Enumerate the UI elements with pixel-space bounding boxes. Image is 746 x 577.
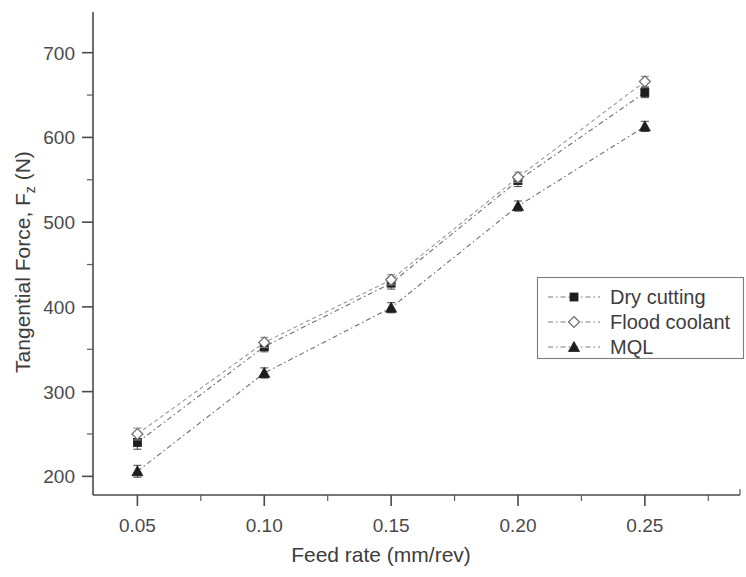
marker-mql-3 [512, 201, 523, 211]
tangential-force-chart: Tangential Force, Fz (N) Feed rate (mm/r… [0, 0, 746, 577]
x-tick-label: 0.10 [246, 515, 283, 536]
marker-flood-coolant-0 [132, 428, 143, 439]
series-dry-cutting [133, 87, 648, 449]
series-line-flood-coolant [137, 82, 645, 435]
y-tick-label: 200 [43, 466, 75, 487]
y-axis-ticks: 200300400500600700 [43, 43, 93, 488]
y-axis-title-text: Tangential Force, F [11, 193, 34, 373]
x-tick-label: 0.25 [626, 515, 663, 536]
y-tick-label: 400 [43, 297, 75, 318]
x-axis-title: Feed rate (mm/rev) [291, 543, 471, 566]
marker-mql-0 [132, 466, 143, 476]
marker-dry-cutting-legend [570, 293, 578, 301]
y-axis-title-subscript: z [22, 186, 38, 193]
x-tick-label: 0.20 [499, 515, 536, 536]
y-axis-title-unit: (N) [11, 151, 34, 186]
y-tick-label: 500 [43, 212, 75, 233]
series-line-dry-cutting [137, 93, 645, 443]
marker-dry-cutting-4 [641, 89, 649, 97]
x-tick-label: 0.05 [119, 515, 156, 536]
x-tick-label: 0.15 [373, 515, 410, 536]
x-axis-ticks: 0.050.100.150.200.25 [119, 489, 740, 536]
chart-canvas: Tangential Force, Fz (N) Feed rate (mm/r… [0, 0, 746, 577]
y-axis-title: Tangential Force, Fz (N) [11, 151, 38, 373]
legend: Dry cuttingFlood coolantMQL [538, 278, 744, 359]
data-series-layer [132, 76, 650, 477]
marker-mql-2 [386, 302, 397, 312]
series-flood-coolant [132, 76, 650, 440]
y-tick-label: 300 [43, 382, 75, 403]
marker-mql-4 [639, 121, 650, 131]
marker-mql-1 [259, 367, 270, 377]
legend-label-mql: MQL [610, 336, 653, 358]
marker-flood-coolant-4 [639, 76, 650, 87]
svg-text:Tangential Force, Fz (N): Tangential Force, Fz (N) [11, 151, 38, 373]
y-tick-label: 700 [43, 43, 75, 64]
legend-label-flood-coolant: Flood coolant [610, 311, 731, 333]
legend-label-dry-cutting: Dry cutting [610, 286, 706, 308]
y-tick-label: 600 [43, 127, 75, 148]
